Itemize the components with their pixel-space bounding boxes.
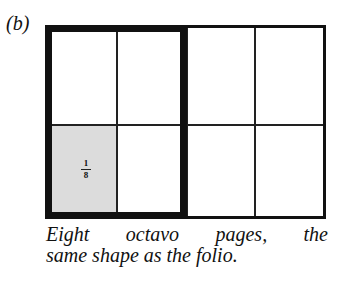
caption-word: octavo	[126, 224, 179, 245]
folio-outline	[45, 25, 187, 219]
fraction-denominator: 8	[84, 170, 89, 180]
caption-word: Eight	[46, 224, 89, 245]
caption-word: the	[304, 224, 328, 245]
caption-word: pages,	[215, 224, 267, 245]
column-divider-3	[254, 28, 256, 216]
caption-line-2: same shape as the folio.	[46, 245, 328, 266]
fraction-label: 1 8	[80, 159, 92, 180]
caption-line-1: Eight octavo pages, the	[46, 224, 328, 245]
figure-caption: Eight octavo pages, the same shape as th…	[46, 224, 328, 266]
fraction-numerator: 1	[84, 158, 89, 168]
figure-label: (b)	[6, 13, 29, 33]
